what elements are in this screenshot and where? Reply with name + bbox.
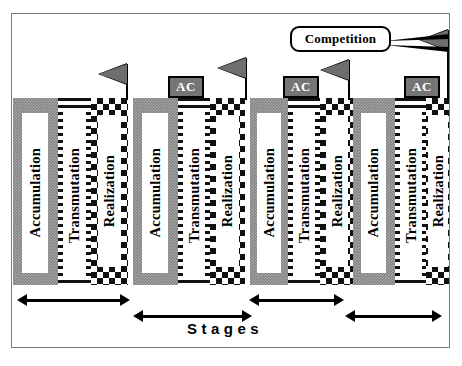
phase-label: Accumulation	[366, 148, 381, 237]
phase-column-transmutation: Transmutation	[58, 98, 91, 285]
phase-label-plate: Accumulation	[22, 113, 48, 273]
phase-column-realization: Realization	[91, 98, 128, 285]
arrow-shaft	[141, 315, 244, 318]
phase-column-accumulation: Accumulation	[13, 98, 58, 285]
diagram-canvas: Accumulation Transmutation Realization A…	[0, 0, 462, 366]
phase-band: Accumulation Transmutation Realization A…	[13, 98, 449, 285]
phase-label: Accumulation	[262, 148, 277, 237]
callout-label: Competition	[305, 31, 377, 47]
phase-column-realization: Realization	[426, 98, 449, 285]
phase-column-realization: Realization	[320, 98, 353, 285]
flag-banner-icon	[99, 64, 127, 84]
phase-column-transmutation: Transmutation	[288, 98, 320, 285]
arrow-head-right-icon	[432, 310, 442, 322]
ac-box: AC	[283, 76, 319, 98]
phase-label: Realization	[431, 155, 446, 227]
phase-label-plate: Realization	[98, 115, 121, 267]
flag-banner-icon	[321, 60, 349, 80]
phase-column-transmutation: Transmutation	[178, 98, 210, 285]
phase-label-plate: Transmutation	[400, 112, 422, 278]
phase-label: Transmutation	[187, 148, 202, 243]
stages-label: Stages	[187, 320, 263, 337]
phase-label: Transmutation	[297, 148, 312, 243]
phase-label: Transmutation	[67, 148, 82, 243]
phase-label-plate: Realization	[216, 115, 239, 267]
phase-label: Realization	[330, 155, 345, 227]
competition-callout: Competition	[290, 26, 391, 52]
arrow-head-right-icon	[120, 294, 130, 306]
phase-label: Accumulation	[28, 148, 43, 237]
phase-label: Realization	[220, 155, 235, 227]
arrow-head-right-icon	[334, 294, 344, 306]
ac-box: AC	[404, 76, 440, 98]
stage-arrow	[17, 294, 130, 306]
ac-box-label: AC	[291, 79, 311, 95]
phase-label: Transmutation	[404, 148, 419, 243]
phase-label-plate: Transmutation	[293, 112, 315, 278]
phase-label-plate: Realization	[326, 115, 348, 267]
phase-column-accumulation: Accumulation	[353, 98, 395, 285]
flag-banner-icon	[218, 58, 246, 78]
stage-arrow	[345, 310, 442, 322]
phase-label-plate: Transmutation	[63, 112, 86, 278]
arrow-shaft	[353, 315, 434, 318]
ac-box: AC	[168, 76, 204, 98]
phase-label-plate: Accumulation	[257, 113, 281, 273]
phase-label: Realization	[102, 155, 117, 227]
arrow-shaft	[25, 299, 122, 302]
ac-box-label: AC	[412, 79, 432, 95]
phase-label-plate: Transmutation	[183, 112, 205, 278]
phase-column-transmutation: Transmutation	[395, 98, 426, 285]
stage-arrow	[249, 294, 344, 306]
phase-column-accumulation: Accumulation	[250, 98, 288, 285]
phase-label-plate: Accumulation	[361, 113, 386, 273]
phase-column-realization: Realization	[210, 98, 245, 285]
callout-tail	[383, 30, 453, 56]
phase-label-plate: Accumulation	[142, 113, 168, 273]
phase-label-plate: Realization	[428, 115, 448, 267]
phase-column-accumulation: Accumulation	[133, 98, 178, 285]
arrow-shaft	[257, 299, 336, 302]
ac-box-label: AC	[176, 79, 196, 95]
phase-label: Accumulation	[148, 148, 163, 237]
